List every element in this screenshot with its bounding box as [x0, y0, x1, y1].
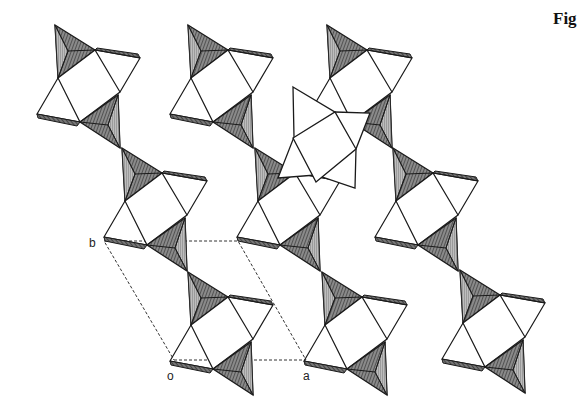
- figure-caption: Fig: [553, 9, 577, 29]
- chain-unit: [304, 272, 407, 395]
- a-axis-label: a: [303, 369, 310, 383]
- tetrahedron-edge-on: [104, 237, 147, 249]
- chain-unit: [170, 272, 273, 395]
- chain-unit: [104, 148, 207, 271]
- tetrahedron-edge-on: [375, 237, 418, 249]
- chain-unit: [375, 148, 478, 271]
- crystal-structure-diagram: [0, 0, 586, 412]
- tetrahedral-chains: [37, 25, 545, 395]
- chain-unit: [37, 25, 140, 148]
- tetrahedron-edge-on: [170, 114, 213, 126]
- origin-label: o: [167, 369, 174, 383]
- tetrahedron-edge-on: [442, 359, 485, 371]
- tetrahedron-edge-on: [304, 361, 347, 373]
- tetrahedron-edge-on: [170, 361, 213, 373]
- chain-unit: [442, 270, 545, 393]
- b-axis-label: b: [89, 236, 96, 250]
- chain-unit: [170, 25, 273, 148]
- tetrahedron-edge-on: [37, 114, 80, 126]
- tetrahedron-edge-on: [237, 237, 280, 249]
